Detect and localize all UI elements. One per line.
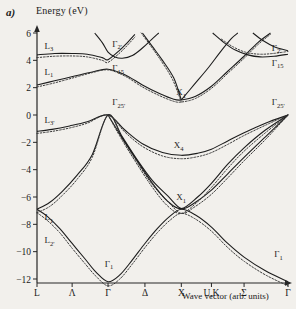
band-curve bbox=[37, 115, 288, 210]
band-curve bbox=[37, 34, 270, 102]
x-tick-label: Γ bbox=[105, 288, 111, 298]
band-label: Γ1 bbox=[274, 249, 282, 261]
y-axis-arrow-icon bbox=[34, 25, 40, 32]
band-label: Γ25' bbox=[112, 97, 125, 109]
band-curve bbox=[37, 209, 288, 281]
band-structure-plot: 6420−2−4−6−8−10−12 LΛΓΔXU,KΣΓ L3L1L3'L1L… bbox=[0, 0, 296, 309]
band-curve bbox=[37, 115, 288, 156]
y-tick-label: −10 bbox=[16, 247, 31, 257]
band-structure-figure: a) Energy (eV) Wave vector (arb. units) … bbox=[0, 0, 296, 309]
band-label: L1 bbox=[45, 212, 54, 224]
y-tick-label: 2 bbox=[26, 83, 31, 93]
band-curve bbox=[108, 115, 288, 213]
band-label: X1 bbox=[176, 87, 186, 99]
band-label: L2' bbox=[45, 235, 55, 247]
band-label: Γ25' bbox=[272, 97, 285, 109]
x-tick-label: L bbox=[34, 288, 40, 298]
y-tick-label: −8 bbox=[21, 220, 31, 230]
band-label: Γ1 bbox=[105, 259, 113, 271]
band-label: L3' bbox=[45, 115, 55, 127]
y-tick-label: −2 bbox=[21, 138, 31, 148]
band-curves-layer bbox=[37, 33, 288, 286]
y-tick-label: 4 bbox=[26, 56, 31, 66]
x-tick-label: Δ bbox=[142, 288, 148, 298]
x-tick-label: Σ bbox=[241, 288, 247, 298]
band-label: X1 bbox=[176, 192, 186, 204]
band-label-layer: L3L1L3'L1L2'Γ2'Γ15Γ25'Γ1X1X4X1Γ2'Γ15Γ25'… bbox=[45, 39, 285, 271]
x-tick-label: Λ bbox=[69, 288, 76, 298]
x-tick-label: U,K bbox=[203, 288, 219, 298]
band-label: X4 bbox=[174, 140, 185, 152]
band-label: Γ2' bbox=[112, 39, 122, 51]
y-tick-label: −4 bbox=[21, 165, 31, 175]
band-label: L1 bbox=[45, 67, 54, 79]
x-tick-label: Γ bbox=[285, 288, 291, 298]
y-tick-label: −12 bbox=[16, 275, 31, 285]
band-label: Γ2' bbox=[272, 43, 282, 55]
x-tick-label: X bbox=[178, 288, 185, 298]
y-tick-label: 6 bbox=[26, 29, 31, 39]
band-label: Γ15 bbox=[112, 63, 124, 75]
band-label: Γ15 bbox=[272, 58, 284, 70]
x-tick-layer: LΛΓΔXU,KΣΓ bbox=[34, 283, 291, 298]
y-tick-label: 0 bbox=[26, 111, 31, 121]
y-tick-layer: 6420−2−4−6−8−10−12 bbox=[16, 29, 37, 285]
y-tick-label: −6 bbox=[21, 193, 31, 203]
band-label: L3 bbox=[45, 41, 54, 53]
